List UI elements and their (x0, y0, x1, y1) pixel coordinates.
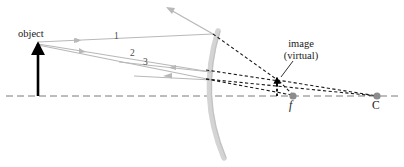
construction-line-ray2-extension (206, 70, 279, 81)
construction-line-image-to-focal-point (279, 81, 293, 95)
reflected-ray-1-arrowhead (166, 7, 175, 14)
incident-ray-2 (38, 44, 211, 72)
center-of-curvature-label: C (372, 99, 380, 112)
ray-number-2-label: 2 (130, 48, 135, 58)
image-label: image (virtual) (272, 38, 330, 62)
incident-ray-1-arrowhead (74, 38, 81, 43)
incident-ray-2-arrowhead (79, 48, 86, 54)
ray-number-3-label: 3 (143, 57, 148, 67)
image-label-leader-line (281, 61, 293, 77)
optics-ray-diagram-figure: object image (virtual) f C 1 2 3 (0, 0, 404, 167)
ray-number-1-label: 1 (114, 31, 119, 41)
incident-ray-3 (38, 45, 212, 80)
object-label: object (18, 28, 44, 40)
incident-ray-1 (38, 34, 213, 42)
reflected-ray-1 (169, 9, 213, 34)
image-label-line-2: (virtual) (272, 50, 330, 62)
diagram-canvas (0, 0, 404, 167)
image-label-line-1: image (272, 38, 330, 50)
construction-line-ray1-extension (213, 34, 279, 81)
focal-point-label: f (289, 99, 292, 112)
